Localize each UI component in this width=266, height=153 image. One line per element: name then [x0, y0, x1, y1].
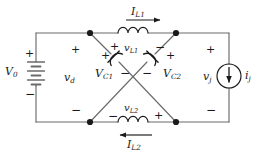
- inductor-l1-symbol: [118, 27, 148, 33]
- sign-vl1-plus: +: [110, 41, 119, 52]
- node-top-right: [173, 30, 179, 36]
- label-voltage-vl2: vL2: [124, 103, 138, 114]
- sign-vl1-minus: −: [155, 41, 165, 53]
- label-current-il2: IL2: [127, 139, 141, 151]
- label-vd: vd: [64, 72, 75, 84]
- circuit-diagram: V0 + − vd + − IL1 vL1 + − VC1 + − VC2 + …: [0, 0, 266, 153]
- node-top-left: [87, 30, 93, 36]
- sign-vd-minus: −: [71, 104, 81, 116]
- label-voltage-vl1: vL1: [124, 43, 138, 54]
- label-capacitor-vc2: VC2: [163, 68, 181, 80]
- label-current-il1: IL1: [131, 6, 145, 18]
- battery-symbol: [28, 62, 45, 86]
- sign-vc2-plus: +: [166, 50, 175, 61]
- current-source-symbol: [217, 64, 241, 88]
- circuit-schematic-canvas: [0, 0, 266, 153]
- sign-vc1-plus: +: [101, 50, 110, 61]
- label-source-v0: V0: [5, 66, 18, 78]
- label-current-ij: ij: [245, 70, 251, 82]
- sign-vl2-minus: −: [108, 110, 118, 122]
- node-bottom-right: [173, 119, 179, 125]
- sign-vd-plus: +: [71, 44, 80, 55]
- sign-vl2-plus: +: [154, 110, 163, 121]
- sign-vc1-minus: −: [120, 67, 130, 79]
- sign-v0-minus: −: [25, 88, 35, 100]
- sign-vj-plus: +: [206, 44, 215, 55]
- sign-v0-plus: +: [25, 48, 34, 59]
- inductor-l2-symbol: [118, 116, 148, 122]
- sign-vj-minus: −: [206, 104, 216, 116]
- label-voltage-vj: vj: [203, 71, 211, 83]
- node-bottom-left: [87, 119, 93, 125]
- sign-vc2-minus: −: [142, 67, 152, 79]
- label-capacitor-vc1: VC1: [95, 68, 113, 80]
